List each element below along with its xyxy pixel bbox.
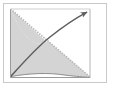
diagram-container bbox=[0, 0, 114, 88]
diagram-canvas bbox=[0, 0, 114, 88]
